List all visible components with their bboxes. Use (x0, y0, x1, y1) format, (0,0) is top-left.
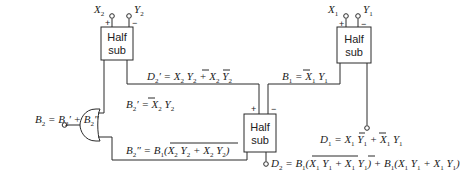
half-subtractor-middle: + − Half sub (244, 104, 276, 152)
box-label-sub: sub (108, 44, 126, 56)
input-terminal-x2[interactable] (110, 14, 115, 19)
box-label-half: Half (250, 121, 271, 133)
equation-d2: D2 = B1(X1 Y1 + X1 Y1) + B1(X1 Y1 + X1 Y… (270, 157, 460, 172)
equation-b2-double-prime: B2″ = B1(X2 Y2 + X2 Y2) (126, 144, 230, 159)
label-x1: X1 (327, 3, 339, 18)
box-label-sub: sub (251, 134, 269, 146)
output-terminal-d1[interactable] (365, 126, 370, 131)
plus-sign: + (251, 104, 256, 114)
label-x2: X2 (93, 3, 105, 18)
equation-d1: D1 = X1 Y1 + X1 Y1 (319, 133, 403, 148)
equation-b1: B1 = X1 Y1 (282, 70, 328, 85)
label-y2: Y2 (134, 3, 144, 18)
half-sub-box (244, 114, 276, 152)
wire-b2-prime (98, 60, 104, 113)
minus-sign: − (271, 104, 276, 114)
equation-b2-prime: B2′ = X2 Y2 (126, 98, 175, 113)
box-label-sub: sub (345, 46, 363, 58)
input-terminal-x1[interactable] (344, 14, 349, 19)
input-terminal-y1[interactable] (356, 14, 361, 19)
equation-d2-prime: D2′ = X2 Y2 + X2 Y2 (146, 70, 232, 85)
input-terminal-y2[interactable] (127, 14, 132, 19)
equation-b2: B2 = B2′ + B2″ (35, 113, 99, 128)
output-terminal-d2[interactable] (264, 162, 269, 167)
half-subtractor-top-left: X2 Y2 + − Half sub (93, 3, 144, 60)
subtractor-diagram: X2 Y2 + − Half sub X1 Y1 + − Half sub + … (0, 0, 468, 180)
box-label-half: Half (107, 31, 128, 43)
box-label-half: Half (344, 33, 365, 45)
label-y1: Y1 (363, 3, 373, 18)
half-subtractor-top-right: X1 Y1 + − Half sub (327, 3, 373, 63)
